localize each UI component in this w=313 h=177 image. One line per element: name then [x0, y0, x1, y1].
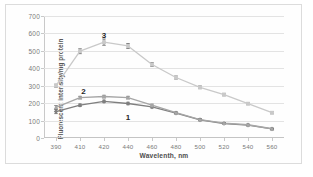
data-point	[198, 85, 202, 89]
chart-figure: Fluorescent intensity/mg protein Wavelen…	[0, 0, 313, 177]
x-tick-mark	[200, 138, 201, 141]
data-point	[102, 40, 106, 44]
x-axis-label: Wavelenth, nm	[44, 152, 284, 159]
x-tick-mark	[104, 138, 105, 141]
series-3	[54, 39, 274, 115]
series-label-2: 2	[81, 87, 85, 96]
data-point	[246, 102, 250, 106]
x-tick-mark	[128, 138, 129, 141]
data-point	[102, 99, 106, 104]
x-tick-label: 460	[147, 143, 158, 150]
plot-area: 0100200300400500600700 39041042044046048…	[44, 16, 284, 138]
y-tick-label: 600	[29, 30, 40, 37]
series-label-3: 3	[102, 30, 106, 39]
x-tick-label: 440	[123, 143, 134, 150]
series-label-1: 1	[126, 113, 130, 122]
data-point	[54, 109, 58, 114]
y-tick-label: 100	[29, 117, 40, 124]
series-1	[54, 99, 274, 131]
x-tick-label: 390	[51, 143, 62, 150]
x-tick-label: 500	[195, 143, 206, 150]
y-tick-label: 200	[29, 100, 40, 107]
data-point	[54, 84, 58, 88]
y-tick-mark	[41, 138, 44, 139]
x-tick-mark	[248, 138, 249, 141]
x-tick-mark	[80, 138, 81, 141]
data-point	[174, 76, 178, 80]
x-tick-mark	[152, 138, 153, 141]
x-tick-label: 420	[99, 143, 110, 150]
series-lines	[44, 16, 284, 138]
y-tick-label: 300	[29, 82, 40, 89]
x-tick-mark	[56, 138, 57, 141]
data-point	[78, 49, 82, 53]
x-tick-label: 520	[219, 143, 230, 150]
x-tick-label: 410	[75, 143, 86, 150]
x-tick-mark	[272, 138, 273, 141]
data-point	[270, 111, 274, 115]
y-tick-label: 500	[29, 47, 40, 54]
data-point	[78, 103, 82, 108]
data-point	[222, 93, 226, 97]
data-point	[126, 44, 130, 48]
data-point	[150, 63, 154, 67]
y-tick-label: 400	[29, 65, 40, 72]
y-tick-label: 700	[29, 13, 40, 20]
data-point	[126, 101, 130, 106]
x-tick-label: 560	[267, 143, 278, 150]
x-tick-label: 540	[243, 143, 254, 150]
x-tick-mark	[224, 138, 225, 141]
x-tick-mark	[176, 138, 177, 141]
y-tick-label: 0	[36, 135, 40, 142]
x-tick-label: 480	[171, 143, 182, 150]
